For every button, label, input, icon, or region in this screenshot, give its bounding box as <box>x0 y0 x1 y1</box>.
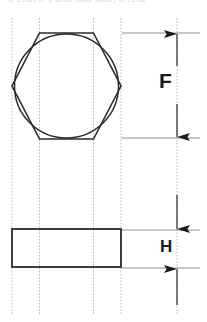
technical-drawing-canvas: a chaco s and ana mar, a rcia <box>0 0 207 322</box>
hexagon-outline <box>12 33 121 139</box>
dimension-label-H: H <box>160 238 172 255</box>
centerline-group <box>12 18 177 314</box>
hexagon-head-top-view <box>12 33 121 139</box>
dimension-label-F: F <box>159 70 172 91</box>
drawing-svg <box>0 0 207 322</box>
head-side-view-rectangle <box>12 229 121 267</box>
